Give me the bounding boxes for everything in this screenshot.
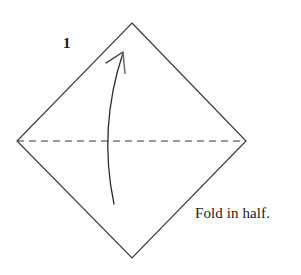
diagram-canvas [0, 0, 301, 275]
arrow-head-right-barb-icon [123, 52, 125, 74]
step-number-label: 1 [63, 36, 71, 51]
instruction-caption: Fold in half. [195, 206, 270, 221]
fold-direction-arrow-curve [108, 53, 123, 204]
origami-fold-diagram: 1 Fold in half. [0, 0, 301, 275]
